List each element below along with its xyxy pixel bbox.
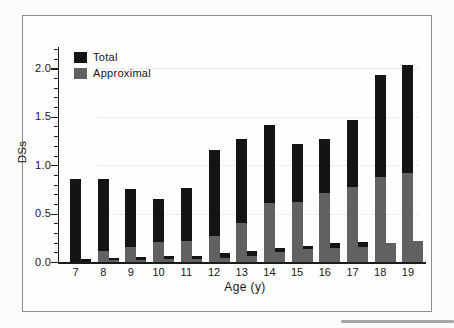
x-tick-label-16: 16 bbox=[314, 266, 336, 279]
legend-label-total: Total bbox=[93, 51, 118, 63]
y-minor-tick-0.7 bbox=[54, 194, 58, 195]
bar-total-age-8 bbox=[98, 179, 109, 262]
y-minor-tick-1.2 bbox=[54, 146, 58, 147]
legend: Total Approximal bbox=[74, 51, 151, 83]
bar-approximal-age-18 bbox=[375, 177, 386, 262]
x-tick-label-14: 14 bbox=[258, 266, 280, 279]
y-minor-tick-0.2 bbox=[54, 243, 58, 244]
x-tick-label-19: 19 bbox=[397, 266, 419, 279]
bar-total-age-7 bbox=[70, 179, 81, 262]
smallbar-approximal-age-16 bbox=[330, 248, 340, 262]
y-minor-tick-1.6 bbox=[54, 107, 58, 108]
x-tick-label-9: 9 bbox=[120, 266, 142, 279]
gridline-1.5 bbox=[97, 117, 419, 118]
y-tick-label-1.5: 1.5 bbox=[27, 110, 51, 123]
y-tick-label-2.0: 2.0 bbox=[27, 62, 51, 75]
smallbar-approximal-age-11 bbox=[192, 259, 202, 262]
y-minor-tick-0.1 bbox=[54, 252, 58, 253]
x-tick-label-10: 10 bbox=[148, 266, 170, 279]
y-minor-tick-1.4 bbox=[54, 126, 58, 127]
x-tick-label-13: 13 bbox=[231, 266, 253, 279]
legend-swatch-total bbox=[74, 52, 87, 63]
x-tick-label-11: 11 bbox=[175, 266, 197, 279]
smallbar-approximal-age-17 bbox=[358, 247, 368, 262]
y-minor-tick-1.9 bbox=[54, 78, 58, 79]
figure-canvas: DSs Age (y) Total Approximal 0.00.51.01.… bbox=[0, 0, 454, 328]
y-minor-tick-1.1 bbox=[54, 156, 58, 157]
y-minor-tick-1.3 bbox=[54, 136, 58, 137]
smallbar-approximal-age-19 bbox=[413, 241, 423, 262]
smallbar-approximal-age-14 bbox=[275, 252, 285, 262]
x-tick-label-8: 8 bbox=[92, 266, 114, 279]
y-minor-tick-2.1 bbox=[54, 59, 58, 60]
bar-approximal-age-12 bbox=[209, 236, 220, 262]
bar-approximal-age-14 bbox=[264, 203, 275, 262]
x-tick-label-18: 18 bbox=[369, 266, 391, 279]
smallbar-approximal-age-9 bbox=[136, 260, 146, 262]
bar-approximal-age-9 bbox=[125, 247, 136, 262]
y-minor-tick-1.8 bbox=[54, 88, 58, 89]
y-minor-tick-0.8 bbox=[54, 185, 58, 186]
bar-approximal-age-11 bbox=[181, 241, 192, 262]
x-tick-label-17: 17 bbox=[342, 266, 364, 279]
y-major-tick-1.5 bbox=[51, 117, 58, 118]
smallbar-approximal-age-8 bbox=[109, 260, 119, 262]
y-tick-label-0.0: 0.0 bbox=[27, 256, 51, 269]
y-major-tick-0.5 bbox=[51, 214, 58, 215]
y-minor-tick-1.7 bbox=[54, 97, 58, 98]
y-minor-tick-0.6 bbox=[54, 204, 58, 205]
bar-approximal-age-15 bbox=[292, 202, 303, 262]
x-tick-label-15: 15 bbox=[286, 266, 308, 279]
bar-approximal-age-8 bbox=[98, 251, 109, 262]
x-axis-title: Age (y) bbox=[202, 280, 288, 294]
gridline-2 bbox=[97, 68, 419, 69]
x-tick-label-12: 12 bbox=[203, 266, 225, 279]
y-minor-tick-2.2 bbox=[54, 49, 58, 50]
scan-artifact-line bbox=[341, 320, 454, 323]
smallbar-approximal-age-13 bbox=[247, 256, 257, 262]
legend-swatch-approximal bbox=[74, 68, 87, 79]
bar-approximal-age-17 bbox=[347, 187, 358, 262]
bar-approximal-age-13 bbox=[236, 223, 247, 262]
smallbar-approximal-age-12 bbox=[220, 258, 230, 262]
y-major-tick-2.0 bbox=[51, 68, 58, 69]
y-tick-label-0.5: 0.5 bbox=[27, 207, 51, 220]
bar-approximal-age-10 bbox=[153, 242, 164, 262]
gridline-0.5 bbox=[97, 214, 419, 215]
y-minor-tick-0.3 bbox=[54, 233, 58, 234]
smallbar-approximal-age-10 bbox=[164, 259, 174, 262]
y-tick-label-1.0: 1.0 bbox=[27, 159, 51, 172]
bar-approximal-age-16 bbox=[319, 193, 330, 262]
smallbar-approximal-age-15 bbox=[303, 249, 313, 262]
x-tick-label-7: 7 bbox=[65, 266, 87, 279]
bar-approximal-age-19 bbox=[402, 173, 413, 262]
smallbar-approximal-age-18 bbox=[386, 243, 396, 262]
y-minor-tick-0.4 bbox=[54, 223, 58, 224]
legend-item-total: Total bbox=[74, 51, 151, 63]
y-axis-line bbox=[58, 47, 60, 264]
y-minor-tick-0.9 bbox=[54, 175, 58, 176]
y-major-tick-1.0 bbox=[51, 165, 58, 166]
x-axis-line bbox=[58, 262, 427, 264]
gridline-1 bbox=[97, 165, 419, 166]
y-major-tick-0.0 bbox=[51, 262, 58, 263]
smallbar-total-age-7 bbox=[81, 259, 91, 262]
